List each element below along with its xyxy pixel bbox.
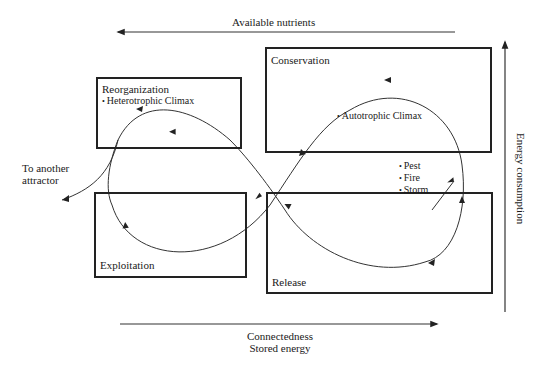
autotrophic-climax-annotation: Autotrophic Climax bbox=[337, 110, 422, 122]
exploitation-box: Exploitation bbox=[94, 192, 247, 278]
right-axis-label: Energy consumption bbox=[515, 133, 527, 224]
adaptive-cycle-diagram: Available nutrients Reorganization Heter… bbox=[0, 0, 545, 372]
bottom-axis-label-line-1: Connectedness bbox=[240, 330, 320, 342]
exploitation-title: Exploitation bbox=[100, 259, 154, 271]
exit-line-1: To another bbox=[22, 162, 69, 174]
exit-line-2: attractor bbox=[22, 174, 69, 186]
conservation-title: Conservation bbox=[271, 54, 330, 66]
bullet-storm: Storm bbox=[399, 184, 428, 196]
bullet-heterotrophic-climax: Heterotrophic Climax bbox=[102, 95, 194, 107]
bullet-autotrophic-climax: Autotrophic Climax bbox=[337, 110, 422, 122]
bottom-axis-label-line-2: Stored energy bbox=[240, 342, 320, 354]
bullet-fire: Fire bbox=[399, 172, 428, 184]
reorganization-title: Reorganization bbox=[102, 83, 169, 95]
release-box: Release bbox=[266, 192, 493, 294]
bottom-axis-label: Connectedness Stored energy bbox=[240, 330, 320, 354]
release-title: Release bbox=[272, 276, 306, 288]
conservation-box: Conservation bbox=[265, 47, 492, 153]
bullet-pest: Pest bbox=[399, 160, 428, 172]
top-axis-label: Available nutrients bbox=[232, 16, 315, 28]
exit-annotation: To another attractor bbox=[22, 162, 69, 186]
disturbance-list: Pest Fire Storm bbox=[399, 160, 428, 196]
reorganization-box: Reorganization Heterotrophic Climax bbox=[96, 77, 242, 149]
reorganization-bullets: Heterotrophic Climax bbox=[102, 95, 194, 107]
